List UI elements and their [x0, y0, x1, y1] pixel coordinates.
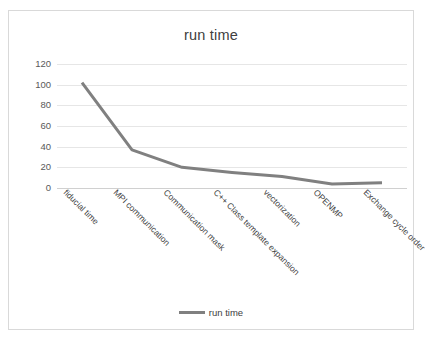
chart-frame: run time 020406080100120 fiducial timeMP…	[8, 10, 414, 330]
chart-legend: run time	[9, 307, 413, 318]
y-tick-label: 40	[23, 142, 51, 152]
series-line-run-time	[82, 83, 382, 184]
x-tick-label: OPENMP	[312, 188, 344, 220]
x-tick-label: MPI communication	[112, 188, 171, 247]
x-tick-label: Exchange cycle order	[362, 188, 425, 253]
x-tick-label: C++ Class template expansion	[212, 188, 301, 277]
x-tick-label: vectorization	[262, 188, 302, 228]
y-tick-label: 60	[23, 121, 51, 131]
y-tick-label: 20	[23, 163, 51, 173]
legend-line-swatch	[179, 311, 205, 314]
y-tick-label: 100	[23, 80, 51, 90]
y-tick-label: 80	[23, 101, 51, 111]
y-tick-label: 0	[23, 183, 51, 193]
chart-title: run time	[9, 27, 413, 43]
series-line-chart	[57, 64, 407, 188]
legend-label: run time	[209, 307, 243, 318]
plot-area	[57, 64, 407, 188]
y-axis-tick-labels: 020406080100120	[19, 64, 51, 188]
y-tick-label: 120	[23, 59, 51, 69]
x-axis-tick-labels: fiducial timeMPI communicationCommunicat…	[57, 188, 407, 298]
x-tick-label: fiducial time	[62, 188, 100, 226]
